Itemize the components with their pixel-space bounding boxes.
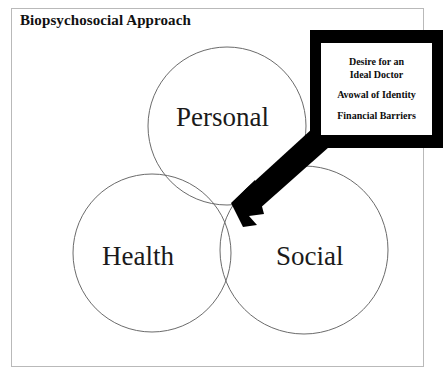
callout-line-2: Avowal of Identity (337, 89, 416, 102)
figure-canvas: Biopsychosocial Approach Personal Health… (0, 0, 447, 380)
callout-line-1: Desire for an Ideal Doctor (349, 56, 404, 81)
callout-line-1a: Desire for an (349, 56, 404, 69)
callout-line-1b: Ideal Doctor (349, 69, 404, 82)
callout-line-3: Financial Barriers (337, 110, 416, 123)
callout-inner: Desire for an Ideal Doctor Avowal of Ide… (321, 43, 432, 135)
callout-box: Desire for an Ideal Doctor Avowal of Ide… (310, 30, 443, 148)
